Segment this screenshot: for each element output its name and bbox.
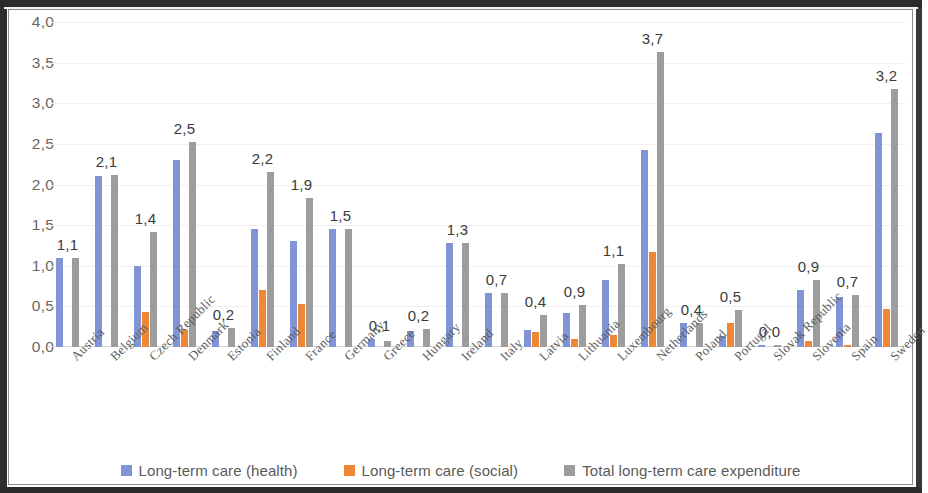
bar-value-label: 3,2 xyxy=(876,67,897,84)
bar-value-label: 0,4 xyxy=(525,293,546,310)
bar-value-label: 0,2 xyxy=(408,307,429,324)
page-frame-bottom xyxy=(0,487,922,493)
x-axis-tick: Ireland xyxy=(438,349,477,445)
bar-social xyxy=(844,345,851,347)
bar-value-label: 0,9 xyxy=(798,258,819,275)
page-frame-left xyxy=(0,0,7,493)
x-axis-tick: Portugal xyxy=(711,349,750,445)
bar-total xyxy=(345,229,352,347)
x-axis-tick: Czech Republic xyxy=(126,349,165,445)
bar-social xyxy=(805,341,812,348)
x-axis-tick: Finland xyxy=(243,349,282,445)
bar-group: 3,2 xyxy=(867,22,906,347)
bar-value-label: 3,7 xyxy=(642,30,663,47)
chart-legend: Long-term care (health)Long-term care (s… xyxy=(8,462,913,479)
legend-item[interactable]: Long-term care (social) xyxy=(344,462,519,479)
bar-groups: 1,12,11,42,50,22,21,91,50,10,21,30,70,40… xyxy=(48,22,906,347)
bar-total xyxy=(891,89,898,347)
bar-total xyxy=(306,198,313,347)
bar-value-label: 0,7 xyxy=(486,271,507,288)
bar-group: 3,7 xyxy=(633,22,672,347)
bar-total xyxy=(501,293,508,347)
x-axis-tick: Germany xyxy=(321,349,360,445)
bar-health xyxy=(641,150,648,347)
legend-item[interactable]: Total long-term care expenditure xyxy=(564,462,800,479)
bar-value-label: 2,1 xyxy=(96,153,117,170)
bar-group: 0,5 xyxy=(711,22,750,347)
x-axis-tick: Denmark xyxy=(165,349,204,445)
bar-health xyxy=(95,176,102,347)
bar-value-label: 2,5 xyxy=(174,120,195,137)
bar-group: 0,9 xyxy=(789,22,828,347)
bar-value-label: 0,7 xyxy=(837,273,858,290)
x-axis-tick: Netherlands xyxy=(633,349,672,445)
x-axis-tick: Estonia xyxy=(204,349,243,445)
bar-total xyxy=(111,175,118,347)
bar-value-label: 1,4 xyxy=(135,210,156,227)
bar-group: 0,9 xyxy=(555,22,594,347)
x-axis-tick: Italy xyxy=(477,349,516,445)
bar-value-label: 0,9 xyxy=(564,283,585,300)
legend-swatch-health xyxy=(121,465,132,476)
bar-value-label: 1,1 xyxy=(603,242,624,259)
x-axis-tick: Spain xyxy=(828,349,867,445)
bar-group: 1,1 xyxy=(48,22,87,347)
bar-group: 0,2 xyxy=(399,22,438,347)
bar-group: 1,9 xyxy=(282,22,321,347)
legend-label: Total long-term care expenditure xyxy=(582,462,800,479)
bar-social xyxy=(571,339,578,347)
legend-item[interactable]: Long-term care (health) xyxy=(121,462,298,479)
x-axis-tick: Sweden xyxy=(867,349,906,445)
bar-group: 0,4 xyxy=(672,22,711,347)
x-axis-tick: Slovenia xyxy=(789,349,828,445)
legend-swatch-total xyxy=(564,465,575,476)
bar-group: 1,1 xyxy=(594,22,633,347)
bar-value-label: 1,1 xyxy=(57,236,78,253)
legend-swatch-social xyxy=(344,465,355,476)
bar-value-label: 0,5 xyxy=(720,288,741,305)
bar-total xyxy=(150,232,157,347)
bar-group: 2,2 xyxy=(243,22,282,347)
bar-group: 1,5 xyxy=(321,22,360,347)
bar-social xyxy=(298,304,305,347)
bar-total xyxy=(72,258,79,347)
x-axis-tick: Slovak Republic xyxy=(750,349,789,445)
x-axis-tick: Luxembourg xyxy=(594,349,633,445)
bar-value-label: 1,3 xyxy=(447,221,468,238)
bar-total xyxy=(618,264,625,347)
bar-group: 2,5 xyxy=(165,22,204,347)
page-frame-top xyxy=(0,0,922,7)
x-axis-tick: Belgium xyxy=(87,349,126,445)
bar-total xyxy=(852,295,859,347)
bar-health xyxy=(56,258,63,347)
bar-group: 0,4 xyxy=(516,22,555,347)
x-axis-tick: Greece xyxy=(360,349,399,445)
bar-social xyxy=(532,332,539,347)
legend-label: Long-term care (health) xyxy=(139,462,298,479)
bar-value-label: 1,9 xyxy=(291,176,312,193)
bar-group: 0,7 xyxy=(477,22,516,347)
bar-value-label: 1,5 xyxy=(330,207,351,224)
bar-health xyxy=(875,133,882,347)
x-axis-tick: Poland xyxy=(672,349,711,445)
x-axis-tick: France xyxy=(282,349,321,445)
bar-value-label: 2,2 xyxy=(252,150,273,167)
bar-group: 0,1 xyxy=(360,22,399,347)
bar-social xyxy=(883,309,890,347)
bar-group: 0,0 xyxy=(750,22,789,347)
plot-area: 1,12,11,42,50,22,21,91,50,10,21,30,70,40… xyxy=(48,22,906,347)
bar-total xyxy=(267,172,274,348)
bar-group: 2,1 xyxy=(87,22,126,347)
page-frame-right xyxy=(916,0,922,493)
x-axis-tick: Latvia xyxy=(516,349,555,445)
bar-group: 1,3 xyxy=(438,22,477,347)
x-axis-tick: Hungary xyxy=(399,349,438,445)
x-axis-tick: Austria xyxy=(48,349,87,445)
bar-total xyxy=(579,305,586,347)
x-axis-tick: Lithuania xyxy=(555,349,594,445)
legend-label: Long-term care (social) xyxy=(362,462,519,479)
bar-group: 1,4 xyxy=(126,22,165,347)
x-axis-labels: AustriaBelgiumCzech RepublicDenmarkEston… xyxy=(48,349,906,445)
